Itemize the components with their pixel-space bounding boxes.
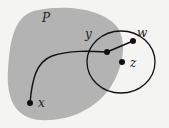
label-x: x [38, 96, 45, 110]
point-x [27, 100, 33, 106]
diagram-canvas: P x y w z [0, 0, 169, 128]
label-w: w [137, 26, 148, 40]
point-z [119, 59, 125, 65]
label-z: z [129, 56, 137, 70]
point-y [104, 49, 110, 55]
region-p [8, 8, 123, 120]
point-w [130, 38, 136, 44]
label-y: y [84, 27, 92, 41]
label-p: P [41, 11, 51, 25]
